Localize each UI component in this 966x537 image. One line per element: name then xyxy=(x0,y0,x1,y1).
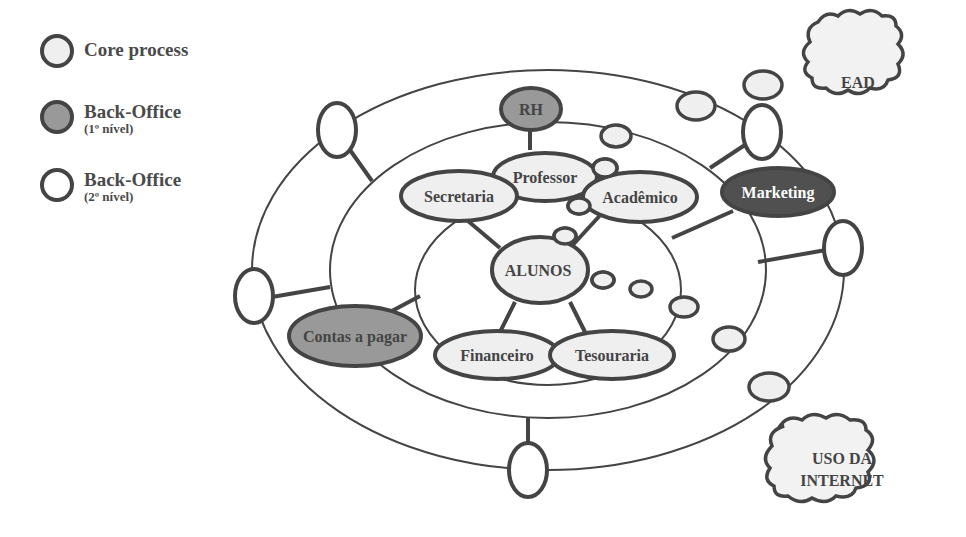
process-diagram: RH Professor Secretaria Acadêmico ALUNOS… xyxy=(0,0,966,537)
backoffice2-node xyxy=(509,443,547,497)
bubble-node xyxy=(592,272,614,288)
label-uso-da: USO DA xyxy=(812,450,872,467)
backoffice2-node xyxy=(743,105,781,159)
label-rh: RH xyxy=(519,101,544,118)
label-financeiro: Financeiro xyxy=(460,347,533,364)
bubble-node xyxy=(554,228,576,244)
backoffice2-node xyxy=(824,221,862,275)
bubble-node xyxy=(677,92,715,120)
bubble-node xyxy=(568,198,590,214)
label-internet: INTERNET xyxy=(800,472,884,489)
label-contas-a-pagar: Contas a pagar xyxy=(303,328,407,346)
label-tesouraria: Tesouraria xyxy=(575,347,649,364)
bubble-node xyxy=(601,125,631,147)
bubble-node xyxy=(670,297,698,317)
bubble-node xyxy=(593,159,617,177)
bubble-node xyxy=(749,373,789,401)
label-secretaria: Secretaria xyxy=(424,188,494,205)
backoffice2-node xyxy=(318,103,356,157)
label-academico: Acadêmico xyxy=(602,189,678,206)
label-ead: EAD xyxy=(841,74,875,91)
label-marketing: Marketing xyxy=(742,184,815,202)
backoffice2-node xyxy=(235,269,273,323)
label-alunos: ALUNOS xyxy=(505,262,572,279)
bubble-node xyxy=(744,71,782,99)
bubble-node xyxy=(713,327,745,351)
bubble-node xyxy=(630,281,652,297)
label-professor: Professor xyxy=(513,169,578,186)
